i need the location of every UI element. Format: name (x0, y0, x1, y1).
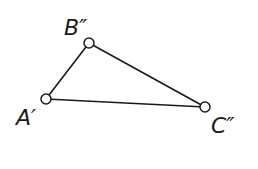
vertex-label-a: A′ (14, 105, 36, 130)
background (0, 0, 258, 169)
vertex-label-c: C″ (211, 113, 235, 138)
vertex-point-a (41, 94, 51, 104)
vertex-point-c (200, 102, 210, 112)
vertex-label-b: B″ (64, 15, 88, 40)
triangle-diagram: A′ B″ C″ (0, 0, 258, 169)
